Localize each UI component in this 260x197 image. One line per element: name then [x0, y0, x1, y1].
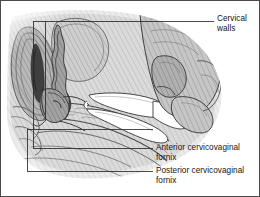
- label-cervical-walls-line-1: Cervical: [217, 14, 247, 24]
- label-posterior-cervicovaginal-fornix: Posterior cervicovaginal fornix: [156, 166, 244, 185]
- label-anterior-cervicovaginal-fornix: Anterior cervicovaginal fornix: [156, 143, 240, 162]
- label-anterior-fornix-line-2: fornix: [156, 153, 240, 163]
- label-anterior-fornix-line-1: Anterior cervicovaginal: [156, 143, 240, 153]
- medical-illustration-figure: Cervical walls Anterior cervicovaginal f…: [0, 0, 260, 197]
- label-posterior-fornix-line-2: fornix: [156, 176, 244, 186]
- label-posterior-fornix-line-1: Posterior cervicovaginal: [156, 166, 244, 176]
- label-cervical-walls-line-2: walls: [217, 24, 247, 34]
- label-cervical-walls: Cervical walls: [217, 14, 247, 33]
